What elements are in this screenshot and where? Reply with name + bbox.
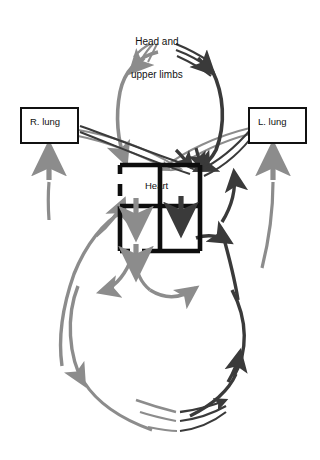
left-lung-label: L. lung bbox=[258, 116, 287, 127]
head-label-line1: Head and bbox=[131, 36, 183, 47]
vessel-heart-to-rlung-a bbox=[80, 126, 196, 168]
capillary-lower-dark-3 bbox=[180, 412, 226, 431]
vessel-to-left-lung-stem bbox=[262, 182, 273, 268]
capillary-lower-grey-2 bbox=[140, 412, 176, 421]
capillary-lower-grey-1 bbox=[136, 400, 176, 412]
arrow-aorta-rightward bbox=[150, 288, 196, 297]
heart-label: Heart bbox=[145, 180, 168, 191]
arrow-aorta-leftward bbox=[100, 262, 130, 292]
heart-structure bbox=[120, 165, 200, 251]
vessel-heart-to-rlung-b bbox=[80, 132, 190, 174]
vessel-to-lower-bed bbox=[84, 382, 152, 430]
vessel-inferior-vena-cava-upper bbox=[222, 172, 235, 222]
vessel-lower-left-descent bbox=[70, 286, 84, 384]
vessel-inferior-vena-cava-mid bbox=[221, 228, 238, 300]
vessel-head-to-right-atrium bbox=[196, 70, 222, 170]
head-label-line2: upper limbs bbox=[131, 69, 183, 80]
circulation-diagram: Head and upper limbs Heart R. lung L. lu… bbox=[0, 0, 320, 460]
deoxygenated-vessels-group bbox=[80, 44, 254, 431]
vessel-to-right-lung-stem bbox=[48, 182, 49, 220]
right-lung-label: R. lung bbox=[30, 116, 60, 127]
head-and-upper-limbs-label: Head and upper limbs bbox=[131, 14, 183, 102]
